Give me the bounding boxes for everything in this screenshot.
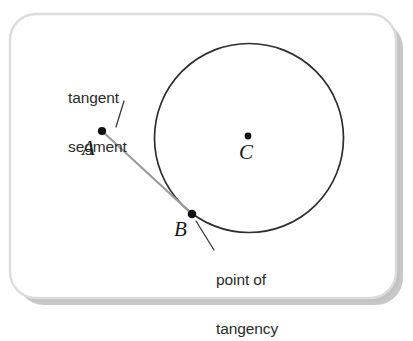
callout-tangent-segment: tangent segment	[68, 58, 127, 187]
point-dot-b	[188, 210, 197, 219]
callout-point-of-tangency: point of tangency	[216, 240, 278, 341]
point-label-c: C	[239, 142, 253, 164]
point-label-b: B	[174, 219, 187, 241]
callout-tangent-segment-line2: segment	[68, 139, 127, 155]
point-dot-c	[245, 133, 252, 140]
callout-point-of-tangency-line2: tangency	[216, 321, 278, 337]
point-label-a: A	[82, 138, 95, 160]
callout-point-of-tangency-line1: point of	[216, 272, 278, 288]
callout-tangent-segment-line1: tangent	[68, 90, 127, 106]
